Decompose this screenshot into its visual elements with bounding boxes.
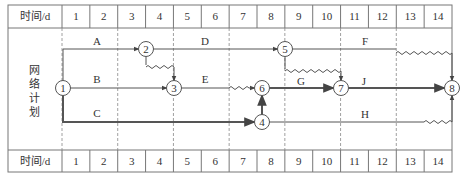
header-day-6: 6 (212, 10, 218, 22)
free-float-wavy-E (229, 87, 249, 90)
header-day-11: 11 (349, 10, 360, 22)
activity-labels: A B C D E F G H J (93, 35, 369, 120)
header-day-8: 8 (268, 10, 274, 22)
activity-label-D: D (201, 35, 209, 47)
activity-label-G: G (297, 75, 305, 87)
header-day-5: 5 (185, 10, 191, 22)
activity-label-H: H (361, 108, 369, 120)
svg-text:6: 6 (259, 82, 265, 94)
header-day-9: 9 (296, 10, 302, 22)
footer-day-8: 8 (268, 155, 274, 167)
activity-label-F: F (362, 35, 368, 47)
footer-day-labels: 1234567891011121314 (73, 155, 444, 167)
free-float-wavy-H (424, 121, 452, 124)
activity-C-arrow (63, 95, 255, 122)
footer-day-9: 9 (296, 155, 302, 167)
svg-text:络: 络 (29, 77, 40, 90)
svg-text:4: 4 (259, 116, 265, 128)
activity-label-C: C (93, 107, 100, 119)
header-day-14: 14 (433, 10, 445, 22)
nodes: 1 2 3 4 5 6 7 8 (56, 42, 460, 130)
node-1: 1 (56, 81, 71, 96)
header-day-1: 1 (73, 10, 79, 22)
footer-day-3: 3 (129, 155, 135, 167)
activity-label-A: A (93, 35, 101, 47)
footer-day-6: 6 (212, 155, 218, 167)
header-day-2: 2 (101, 10, 107, 22)
svg-text:2: 2 (143, 43, 149, 55)
activity-A-arrow (63, 49, 139, 81)
footer-day-5: 5 (185, 155, 191, 167)
node-6: 6 (255, 81, 270, 96)
footer-day-10: 10 (321, 155, 333, 167)
header-day-7: 7 (240, 10, 246, 22)
time-scaled-network-diagram: 时间/d 1234567891011121314 时间/d 1234567891… (0, 0, 462, 180)
footer-day-7: 7 (240, 155, 246, 167)
svg-text:1: 1 (60, 82, 66, 94)
svg-text:划: 划 (29, 106, 40, 118)
svg-text:计: 计 (29, 92, 40, 104)
header-day-4: 4 (157, 10, 163, 22)
header-day-12: 12 (377, 10, 388, 22)
footer-day-2: 2 (101, 155, 107, 167)
header-day-3: 3 (129, 10, 135, 22)
svg-text:3: 3 (171, 82, 177, 94)
free-float-wavy-F (396, 52, 452, 55)
node-5: 5 (278, 42, 293, 57)
footer-day-11: 11 (349, 155, 360, 167)
header-day-13: 13 (405, 10, 417, 22)
node-7: 7 (334, 81, 349, 96)
footer-day-1: 1 (73, 155, 79, 167)
side-label-network-plan: 网 络 计 划 (29, 64, 40, 118)
footer-day-4: 4 (157, 155, 163, 167)
free-float-wavy-5-7 (285, 70, 341, 73)
footer-day-12: 12 (377, 155, 388, 167)
svg-text:5: 5 (282, 43, 288, 55)
node-8: 8 (445, 81, 460, 96)
node-3: 3 (167, 81, 182, 96)
header-day-labels: 1234567891011121314 (73, 10, 444, 22)
node-4: 4 (255, 115, 270, 130)
activity-label-J: J (362, 75, 367, 87)
header-day-10: 10 (321, 10, 333, 22)
svg-text:网: 网 (29, 64, 40, 76)
free-float-wavy-2-3 (146, 66, 174, 69)
footer-time-label: 时间/d (20, 155, 51, 167)
activity-label-E: E (202, 73, 209, 85)
node-2: 2 (139, 42, 154, 57)
svg-text:8: 8 (449, 82, 455, 94)
header-time-label: 时间/d (20, 10, 51, 22)
footer-day-13: 13 (405, 155, 417, 167)
activity-label-B: B (93, 73, 100, 85)
footer-day-14: 14 (433, 155, 445, 167)
svg-text:7: 7 (338, 82, 344, 94)
